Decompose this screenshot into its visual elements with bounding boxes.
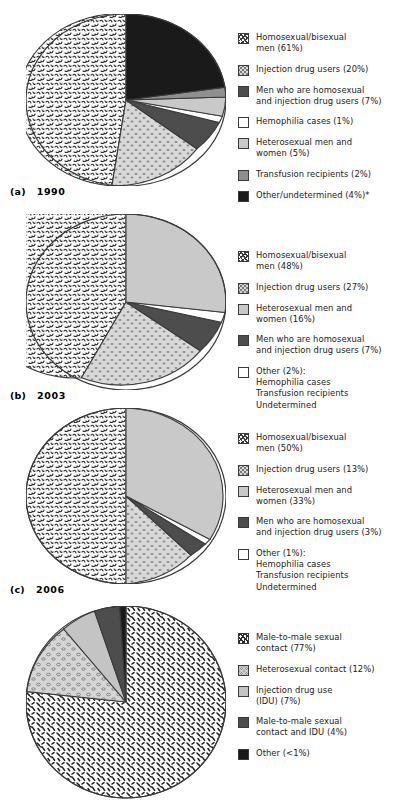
legend-label: Other (<1%) [256, 748, 310, 759]
swatch-speckle-icon [238, 665, 249, 676]
swatch-white-icon [238, 549, 249, 560]
legend-sub-line: Transfusion recipients [256, 570, 348, 581]
legend-sub-line: Hemophilia cases [256, 559, 348, 570]
legend-line2: women (5%) [256, 148, 352, 159]
legend-line1: Heterosexual men and [256, 485, 352, 495]
legend-line1: Heterosexual men and [256, 303, 352, 313]
legend-label: Heterosexual men andwomen (16%) [256, 303, 352, 326]
legend-item[interactable]: Male-to-male sexualcontact (77%) [238, 632, 396, 655]
swatch-dark-icon [238, 335, 249, 346]
pie-chart-d [26, 606, 226, 802]
legend-line1: Male-to-male sexual [256, 632, 342, 642]
legend-line1: Hemophilia cases (1%) [256, 116, 353, 126]
swatch-dash-icon [238, 633, 249, 644]
swatch-lightgray-icon [238, 304, 249, 315]
swatch-black-icon [238, 749, 249, 760]
caption-year-a: 1990 [37, 186, 66, 197]
chart-block-a: (a)1990 Homosexual/bisexualmen (61%) Inj… [0, 8, 396, 198]
legend-item[interactable]: Men who are homosexualand injection drug… [238, 334, 396, 357]
legend-label: Men who are homosexualand injection drug… [256, 516, 381, 539]
legend-line2: contact (77%) [256, 643, 342, 654]
swatch-scribble-icon [238, 433, 249, 444]
legend-line2: (IDU) (7%) [256, 696, 332, 707]
swatch-scribble-icon [238, 33, 249, 44]
legend-line1: Heterosexual men and [256, 137, 352, 147]
legend-line2: women (33%) [256, 496, 352, 507]
swatch-black-icon [238, 191, 249, 202]
legend-item[interactable]: Other (1%): Hemophilia casesTransfusion … [238, 548, 396, 593]
legend-item[interactable]: Injection drug users (20%) [238, 64, 396, 76]
chart-block-c: (c)2006 Homosexual/bisexualmen (50%) Inj… [0, 400, 396, 596]
swatch-dark-icon [238, 717, 249, 728]
legend-label: Heterosexual men andwomen (5%) [256, 137, 352, 160]
pie-chart-a [26, 14, 226, 186]
legend-label: Homosexual/bisexualmen (61%) [256, 32, 346, 55]
legend-line1: Injection drug users (27%) [256, 282, 368, 292]
legend-line1: Men who are homosexual [256, 85, 364, 95]
legend-line2: women (16%) [256, 314, 352, 325]
legend-item[interactable]: Heterosexual men andwomen (5%) [238, 137, 396, 160]
legend-chart-b: Homosexual/bisexualmen (48%) Injection d… [238, 250, 396, 420]
legend-chart-a: Homosexual/bisexualmen (61%) Injection d… [238, 32, 396, 211]
pie-d-svg [26, 606, 226, 802]
legend-item[interactable]: Other (<1%) [238, 748, 396, 760]
swatch-speckle-icon [238, 283, 249, 294]
swatch-lightgray-icon [238, 486, 249, 497]
caption-label-a: (a) [10, 186, 26, 197]
legend-item[interactable]: Male-to-male sexualcontact and IDU (4%) [238, 716, 396, 739]
pie-a-svg [26, 14, 226, 186]
legend-line1: Heterosexual contact (12%) [256, 664, 374, 674]
legend-item[interactable]: Homosexual/bisexualmen (48%) [238, 250, 396, 273]
legend-line2: and injection drug users (3%) [256, 527, 381, 538]
legend-label: Heterosexual contact (12%) [256, 664, 374, 675]
legend-line1: Male-to-male sexual [256, 716, 342, 726]
legend-label: Transfusion recipients (2%) [256, 169, 371, 180]
legend-item[interactable]: Homosexual/bisexualmen (61%) [238, 32, 396, 55]
legend-item[interactable]: Homosexual/bisexualmen (50%) [238, 432, 396, 455]
swatch-dark-icon [238, 86, 249, 97]
legend-line1: Other (<1%) [256, 748, 310, 758]
legend-item[interactable]: Heterosexual men andwomen (33%) [238, 485, 396, 508]
legend-item[interactable]: Other/undetermined (4%)* [238, 190, 396, 202]
swatch-speckle-icon [238, 65, 249, 76]
legend-item[interactable]: Injection drug users (13%) [238, 464, 396, 476]
legend-item[interactable]: Men who are homosexualand injection drug… [238, 85, 396, 108]
pie-b-svg [26, 214, 226, 390]
pie-chart-c [26, 408, 226, 584]
swatch-scribble-icon [238, 251, 249, 262]
legend-item[interactable]: Transfusion recipients (2%) [238, 169, 396, 181]
swatch-lightgray-icon [238, 686, 249, 697]
legend-line1: Injection drug users (20%) [256, 64, 368, 74]
legend-line2: men (48%) [256, 261, 346, 272]
swatch-speckle-icon [238, 465, 249, 476]
legend-label: Male-to-male sexualcontact and IDU (4%) [256, 716, 347, 739]
legend-item[interactable]: Injection drug users (27%) [238, 282, 396, 294]
legend-line1: Transfusion recipients (2%) [256, 169, 371, 179]
legend-item[interactable]: Heterosexual men andwomen (16%) [238, 303, 396, 326]
swatch-midgray-icon [238, 170, 249, 181]
legend-line2: men (50%) [256, 443, 346, 454]
legend-label: Heterosexual men andwomen (33%) [256, 485, 352, 508]
legend-item[interactable]: Injection drug use(IDU) (7%) [238, 685, 396, 708]
pie-chart-b [26, 214, 226, 390]
legend-chart-c: Homosexual/bisexualmen (50%) Injection d… [238, 432, 396, 602]
swatch-white-icon [238, 117, 249, 128]
swatch-dark-icon [238, 517, 249, 528]
legend-label: Homosexual/bisexualmen (48%) [256, 250, 346, 273]
legend-item[interactable]: Men who are homosexualand injection drug… [238, 516, 396, 539]
legend-line1: Homosexual/bisexual [256, 432, 346, 442]
legend-line2: and injection drug users (7%) [256, 96, 381, 107]
chart-block-d: Male-to-male sexualcontact (77%) Heteros… [0, 594, 396, 809]
pie-c-svg [26, 408, 226, 584]
legend-label: Men who are homosexualand injection drug… [256, 334, 381, 357]
legend-item[interactable]: Hemophilia cases (1%) [238, 116, 396, 128]
legend-sub-line: Transfusion recipients [256, 388, 348, 399]
legend-label: Injection drug users (27%) [256, 282, 368, 293]
legend-label: Other/undetermined (4%)* [256, 190, 370, 201]
legend-line1: Homosexual/bisexual [256, 32, 346, 42]
caption-chart-a: (a)1990 [10, 186, 66, 197]
legend-line1: Other (1%): [256, 548, 306, 558]
swatch-lightgray-icon [238, 138, 249, 149]
chart-block-b: (b)2003 Homosexual/bisexualmen (48%) Inj… [0, 208, 396, 404]
legend-item[interactable]: Heterosexual contact (12%) [238, 664, 396, 676]
